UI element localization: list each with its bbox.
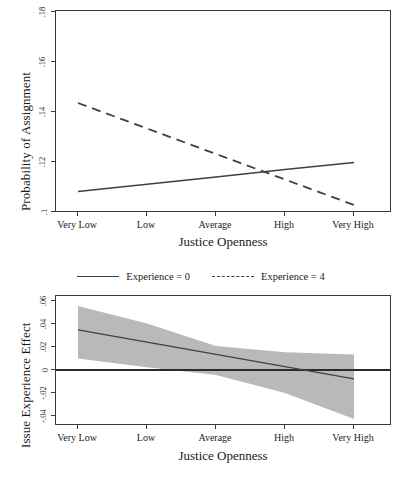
bottom-y-axis-title: Issue Experience Effect (18, 268, 34, 448)
legend-label: Experience = 4 (261, 271, 325, 282)
top-xtick-mark (146, 212, 147, 216)
bottom-xtick-label: Low (106, 432, 186, 443)
bottom-xtick-mark (146, 425, 147, 429)
bottom-series-svg (56, 296, 390, 424)
bottom-xtick-label: Very Low (37, 432, 117, 443)
legend: Experience = 0 Experience = 4 (0, 268, 402, 284)
top-series-svg (56, 11, 390, 211)
top-ytick-label: .16 (37, 44, 47, 80)
top-xtick-mark (215, 212, 216, 216)
bottom-xtick-label: Average (175, 432, 255, 443)
top-y-axis-title: Probability of Assignment (18, 11, 34, 211)
top-xtick-label: High (244, 219, 324, 230)
bottom-xtick-label: High (244, 432, 324, 443)
legend-line-dashed-icon (212, 276, 254, 277)
top-ytick-label: .14 (37, 94, 47, 130)
bottom-xtick-mark (77, 425, 78, 429)
confidence-band-95 (78, 306, 354, 419)
series-experience-4-line (78, 103, 354, 205)
bottom-xtick-mark (284, 425, 285, 429)
bottom-ytick-label: -.04 (38, 398, 48, 434)
legend-label: Experience = 0 (126, 271, 190, 282)
top-xtick-label: Very High (313, 219, 393, 230)
legend-line-solid-icon (77, 276, 119, 277)
top-xtick-label: Low (106, 219, 186, 230)
panel-top: Probability of Assignment .18 .16 .14 .1… (0, 0, 402, 250)
bottom-plot-area (55, 295, 391, 425)
series-experience-0-line (78, 162, 354, 191)
top-xtick-mark (284, 212, 285, 216)
legend-entry-experience-0: Experience = 0 (77, 271, 190, 282)
top-ytick-label: .18 (37, 0, 47, 30)
panel-bottom: Issue Experience Effect .06 .04 .02 0 -.… (0, 290, 402, 480)
top-x-axis-title: Justice Openness (55, 234, 391, 250)
bottom-xtick-label: Very High (313, 432, 393, 443)
top-xtick-label: Very Low (37, 219, 117, 230)
top-xtick-label: Average (175, 219, 255, 230)
bottom-xtick-mark (215, 425, 216, 429)
top-plot-area (55, 10, 391, 212)
figure-container: Probability of Assignment .18 .16 .14 .1… (0, 0, 402, 480)
legend-entry-experience-4: Experience = 4 (212, 271, 325, 282)
top-xtick-mark (77, 212, 78, 216)
top-ytick-label: .12 (37, 144, 47, 180)
bottom-x-axis-title: Justice Openness (55, 448, 391, 464)
top-xtick-mark (353, 212, 354, 216)
bottom-xtick-mark (353, 425, 354, 429)
